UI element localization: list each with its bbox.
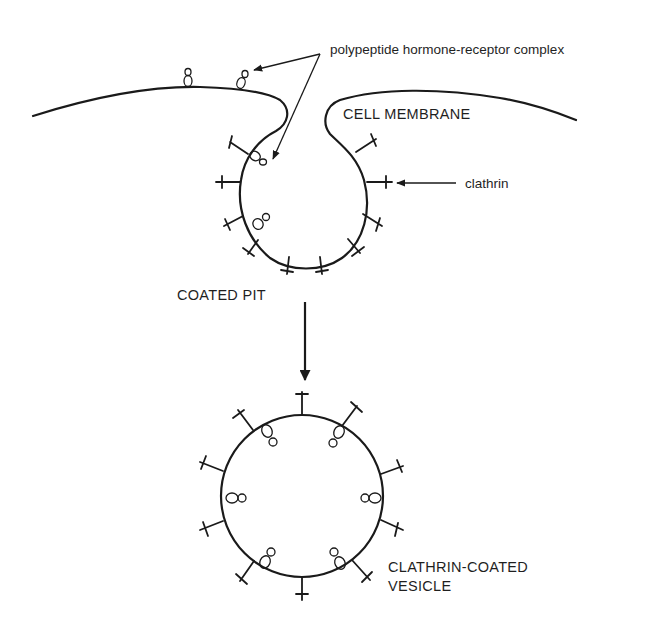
receptor-complex-vesicle-1 <box>260 423 277 446</box>
receptor-complex-surface-1 <box>184 69 192 87</box>
pit-clathrin-coat <box>216 134 392 274</box>
complex-pointer-arrows <box>254 54 320 159</box>
label-complex: polypeptide hormone-receptor complex <box>330 42 564 57</box>
label-coated-pit: COATED PIT <box>177 287 266 303</box>
receptor-complex-pit-2 <box>251 214 270 232</box>
label-vesicle-line2: VESICLE <box>388 578 451 594</box>
receptor-complex-vesicle-5 <box>258 548 275 570</box>
receptor-complex-vesicle-4 <box>361 493 381 503</box>
label-vesicle-line1: CLATHRIN-COATED <box>388 559 528 575</box>
label-cell-membrane: CELL MEMBRANE <box>343 106 470 122</box>
receptor-complex-pit-1 <box>248 149 267 165</box>
receptor-complex-vesicle-3 <box>226 493 246 503</box>
receptor-complex-surface-2 <box>235 71 248 90</box>
endocytosis-diagram: polypeptide hormone-receptor complex CEL… <box>0 0 672 632</box>
vesicle-clathrin-coat <box>200 392 403 600</box>
vesicle-receptor-complexes <box>226 423 381 571</box>
label-clathrin: clathrin <box>465 176 509 191</box>
receptor-complex-vesicle-2 <box>329 424 346 447</box>
